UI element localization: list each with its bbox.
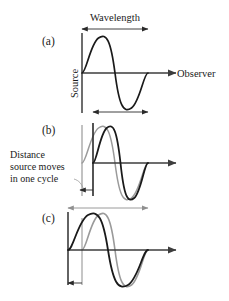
distance-label-line1: Distance <box>10 149 46 160</box>
figure-canvas: (a) Source Wavelength Observer (b) Dista… <box>0 0 229 301</box>
panel-a: (a) Source Wavelength Observer <box>42 12 216 113</box>
panel-c: (c) <box>42 208 176 287</box>
panel-b-label: (b) <box>42 124 56 137</box>
panel-c-label: (c) <box>42 212 55 225</box>
observer-axis-label: Observer <box>177 68 216 79</box>
source-axis-label: Source <box>69 69 80 98</box>
wavelength-label: Wavelength <box>90 12 141 23</box>
distance-label-line2: source moves <box>10 161 65 172</box>
distance-source-moves-annotation: Distance source moves in one cycle <box>10 149 84 190</box>
doppler-wave-figure: (a) Source Wavelength Observer (b) Dista… <box>0 0 229 301</box>
panel-b: (b) Distance source moves in one cycle <box>10 112 176 200</box>
distance-label-line3: in one cycle <box>10 173 59 184</box>
panel-a-label: (a) <box>42 35 55 48</box>
